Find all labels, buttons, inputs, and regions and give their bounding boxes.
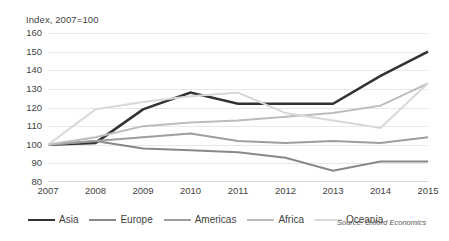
legend-label: Europe: [120, 214, 152, 225]
legend-swatch-icon: [247, 219, 274, 221]
legend-label: Asia: [59, 214, 78, 225]
legend-swatch-icon: [28, 219, 55, 221]
chart-root: Index, 2007=100 809010011012013014015016…: [0, 0, 449, 241]
x-tick-label: 2007: [28, 186, 68, 196]
x-tick-label: 2008: [76, 186, 116, 196]
y-tick-label: 110: [12, 121, 42, 131]
series-lines: [48, 33, 428, 182]
x-axis-tick-labels: 200720082009201020112012201320142015: [48, 186, 428, 200]
plot-area: [48, 33, 428, 182]
legend-item-africa[interactable]: Africa: [247, 214, 304, 225]
y-axis-tick-labels: 8090100110120130140150160: [12, 33, 42, 182]
x-tick-label: 2015: [408, 186, 448, 196]
source-note: Source: Oxford Economics: [337, 218, 426, 227]
axis-note: Index, 2007=100: [26, 14, 99, 25]
series-line-europe: [48, 141, 428, 171]
x-tick-label: 2010: [171, 186, 211, 196]
x-tick-label: 2009: [123, 186, 163, 196]
y-tick-label: 150: [12, 47, 42, 57]
legend-label: Americas: [195, 214, 237, 225]
legend-item-americas[interactable]: Americas: [164, 214, 237, 225]
y-tick-label: 120: [12, 103, 42, 113]
y-tick-label: 160: [12, 28, 42, 38]
legend-item-europe[interactable]: Europe: [89, 214, 152, 225]
y-tick-label: 130: [12, 84, 42, 94]
y-tick-label: 90: [12, 158, 42, 168]
series-line-asia: [48, 52, 428, 145]
x-tick-label: 2013: [313, 186, 353, 196]
y-tick-label: 100: [12, 140, 42, 150]
x-tick-label: 2014: [361, 186, 401, 196]
legend-label: Africa: [278, 214, 304, 225]
legend-swatch-icon: [164, 219, 191, 221]
legend-item-asia[interactable]: Asia: [28, 214, 78, 225]
x-tick-label: 2012: [266, 186, 306, 196]
legend-swatch-icon: [89, 219, 116, 221]
y-tick-label: 140: [12, 65, 42, 75]
x-tick-label: 2011: [218, 186, 258, 196]
